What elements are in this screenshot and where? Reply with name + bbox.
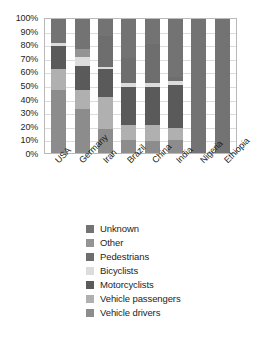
y-axis-tick-label: 30% xyxy=(21,109,38,118)
y-axis-tick-label: 90% xyxy=(21,27,38,36)
legend-item: Motorcyclists xyxy=(86,278,246,292)
bar-segment xyxy=(191,19,206,153)
bar-segment xyxy=(145,125,160,141)
y-axis-tick-label: 80% xyxy=(21,41,38,50)
bar-segment xyxy=(145,44,160,83)
bar-segment xyxy=(145,87,160,125)
bar-segment xyxy=(98,69,113,97)
bar-segment xyxy=(75,66,90,90)
legend-swatch-icon xyxy=(86,225,94,233)
bar-segment xyxy=(51,90,66,153)
bar-segment xyxy=(121,58,136,83)
legend-item: Pedestrians xyxy=(86,250,246,264)
bar-segment xyxy=(98,36,113,67)
bar-segment xyxy=(51,19,66,43)
legend-swatch-icon xyxy=(86,267,94,275)
legend-item: Unknown xyxy=(86,222,246,236)
legend-swatch-icon xyxy=(86,253,94,261)
bar-segment xyxy=(75,90,90,109)
bar-india xyxy=(168,19,183,153)
bar-segment xyxy=(75,19,90,48)
y-axis: 0%10%20%30%40%50%60%70%80%90%100% xyxy=(0,18,41,154)
legend-item: Vehicle drivers xyxy=(86,306,246,320)
bar-nigeria xyxy=(191,19,206,153)
bar-segment xyxy=(75,57,90,66)
y-axis-tick-label: 70% xyxy=(21,54,38,63)
legend-item: Other xyxy=(86,236,246,250)
stacked-bar-chart: 0%10%20%30%40%50%60%70%80%90%100% USAGer… xyxy=(0,0,254,346)
bar-usa xyxy=(51,19,66,153)
bar-brazil xyxy=(121,19,136,153)
x-axis: USAGermanyIranBrazilChinaIndiaNigeriaEth… xyxy=(44,156,237,212)
legend-swatch-icon xyxy=(86,295,94,303)
bar-group xyxy=(45,19,236,153)
bar-segment xyxy=(121,19,136,58)
legend-label: Motorcyclists xyxy=(100,280,154,290)
legend-item: Vehicle passengers xyxy=(86,292,246,306)
bar-china xyxy=(145,19,160,153)
bar-segment xyxy=(215,19,230,153)
bar-segment xyxy=(145,19,160,44)
bar-segment xyxy=(121,87,136,125)
legend-label: Vehicle passengers xyxy=(100,294,181,304)
legend-label: Other xyxy=(100,238,123,248)
y-axis-tick-label: 60% xyxy=(21,68,38,77)
legend-label: Vehicle drivers xyxy=(100,308,160,318)
y-axis-tick-label: 10% xyxy=(21,136,38,145)
legend-swatch-icon xyxy=(86,281,94,289)
y-axis-tick-label: 50% xyxy=(21,82,38,91)
legend: UnknownOtherPedestriansBicyclistsMotorcy… xyxy=(86,222,246,320)
bar-segment xyxy=(75,49,90,57)
bar-segment xyxy=(168,19,183,77)
bar-germany xyxy=(75,19,90,153)
legend-label: Pedestrians xyxy=(100,252,149,262)
y-axis-tick-label: 0% xyxy=(25,150,38,159)
y-axis-tick-label: 100% xyxy=(16,14,38,23)
legend-label: Unknown xyxy=(100,224,139,234)
legend-label: Bicyclists xyxy=(100,266,138,276)
bar-segment xyxy=(51,46,66,69)
bar-segment xyxy=(51,69,66,90)
legend-swatch-icon xyxy=(86,309,94,317)
y-axis-tick-label: 40% xyxy=(21,95,38,104)
bar-ethiopia xyxy=(215,19,230,153)
legend-item: Bicyclists xyxy=(86,264,246,278)
plot-area xyxy=(44,18,237,154)
y-axis-tick-label: 20% xyxy=(21,122,38,131)
legend-swatch-icon xyxy=(86,239,94,247)
bar-segment xyxy=(121,125,136,140)
bar-segment xyxy=(98,97,113,129)
bar-segment xyxy=(98,19,113,36)
bar-segment xyxy=(168,128,183,140)
bar-segment xyxy=(168,85,183,128)
